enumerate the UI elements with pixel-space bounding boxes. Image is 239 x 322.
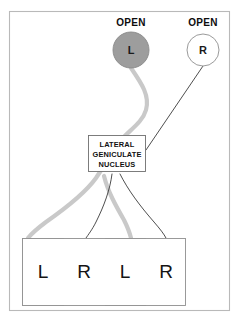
ocular-dominance-diagram: OPEN L OPEN R LATERAL GENICULATE NUCLEUS…	[0, 0, 239, 322]
left-eye-letter: L	[128, 44, 135, 56]
right-eye-status-label: OPEN	[188, 17, 218, 28]
cortex-stripe-letter-4: R	[159, 261, 173, 282]
cortex-stripe-letter-2: R	[77, 261, 91, 282]
lgn-label-line-2: GENICULATE	[93, 150, 142, 159]
cortex-stripe-letter-1: L	[38, 261, 49, 282]
figure-root: OPEN L OPEN R LATERAL GENICULATE NUCLEUS…	[0, 0, 239, 322]
visual-cortex-group: L R L R	[22, 238, 186, 306]
right-eye-letter: R	[199, 44, 207, 56]
right-eye-group: OPEN R	[187, 17, 219, 66]
left-eye-group: OPEN L	[113, 17, 149, 68]
left-eye-status-label: OPEN	[116, 17, 146, 28]
lateral-geniculate-nucleus-group: LATERAL GENICULATE NUCLEUS	[89, 136, 146, 172]
lgn-label-line-1: LATERAL	[100, 140, 135, 149]
cortex-stripe-letter-3: L	[120, 261, 131, 282]
lgn-label-line-3: NUCLEUS	[99, 160, 136, 169]
